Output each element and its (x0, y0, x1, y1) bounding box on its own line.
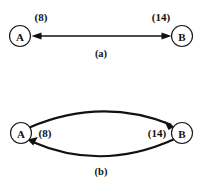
panel-caption-b: (b) (95, 166, 108, 178)
edge-weight-b-right: (14) (148, 127, 167, 140)
node-label-a: A (17, 128, 25, 140)
panel-a: A B (8) (14) (a) (10, 11, 193, 60)
figure-container: A B (8) (14) (a) (0, 0, 205, 185)
edge-b-top-curve (30, 111, 171, 127)
node-label-b: B (178, 128, 186, 140)
node-a-right: B (172, 26, 193, 47)
node-label-b: B (178, 31, 186, 43)
edge-weight-a-right: (14) (152, 11, 171, 24)
panel-caption-a: (a) (95, 48, 108, 60)
node-b-right: B (172, 123, 193, 144)
edge-weight-a-left: (8) (35, 11, 48, 24)
edge-a-arrowhead-left (32, 33, 42, 40)
node-a-left: A (10, 26, 31, 47)
panel-b: A B (8) (14) (b) (11, 111, 193, 177)
edge-a-arrowhead-right (162, 33, 172, 40)
edge-b-bottom-curve (32, 140, 174, 157)
graph-figure: A B (8) (14) (a) (0, 0, 205, 185)
node-b-left: A (11, 123, 32, 144)
edge-weight-b-left: (8) (39, 127, 52, 140)
node-label-a: A (16, 31, 24, 43)
